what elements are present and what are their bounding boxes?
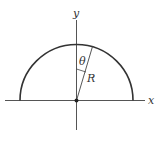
x-axis-label: x [148,94,155,107]
origin-point [75,99,79,103]
angle-marker [77,69,87,72]
semicircle-diagram: y x θ R [0,0,162,141]
angle-label: θ [79,55,86,68]
y-axis-label: y [72,7,80,20]
radius-label: R [86,72,95,85]
